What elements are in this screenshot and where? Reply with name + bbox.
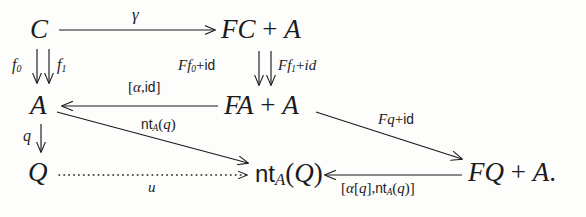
- edge-label-f0: f0: [12, 57, 21, 74]
- node-A: A: [30, 92, 47, 119]
- node-FC-plus-A: FC + A: [221, 16, 301, 43]
- edge-label-Fq-plus-id: Fq+id: [378, 112, 414, 127]
- node-C: C: [30, 16, 48, 43]
- node-ntA-Q: ntA(Q): [255, 160, 323, 189]
- edge-label-gamma: γ: [132, 6, 139, 23]
- edge-label-alpha-id: [α,id]: [128, 80, 160, 95]
- edge-label-q: q: [23, 128, 31, 144]
- edge-label-alpha-q-ntA-q: [α[q],ntA(q)]: [341, 181, 415, 197]
- node-FQ-plus-A: FQ + A.: [468, 159, 556, 186]
- commutative-diagram: C FC + A A FA + A Q ntA(Q) FQ + A. γ f0 …: [0, 0, 586, 217]
- edge-label-u: u: [148, 180, 156, 195]
- edge-label-Ff1-plus-id: Ff1+id: [278, 58, 316, 74]
- edge-label-f1: f1: [57, 57, 66, 74]
- node-Q: Q: [28, 159, 48, 186]
- node-FA-plus-A: FA + A: [224, 92, 299, 119]
- edge-label-ntA-q: ntA(q): [141, 117, 176, 133]
- edge-label-Ff0-plus-id: Ff0+id: [178, 58, 215, 74]
